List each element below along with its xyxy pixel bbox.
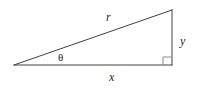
adjacent-leg-label: x — [109, 71, 114, 83]
triangle-diagram-svg — [0, 0, 200, 89]
right-angle-marker-icon — [163, 57, 171, 65]
angle-theta-label: θ — [58, 52, 63, 63]
right-triangle-figure: r y x θ — [0, 0, 200, 89]
hypotenuse-line — [14, 10, 172, 65]
opposite-leg-label: y — [180, 35, 185, 47]
hypotenuse-label: r — [106, 11, 111, 23]
